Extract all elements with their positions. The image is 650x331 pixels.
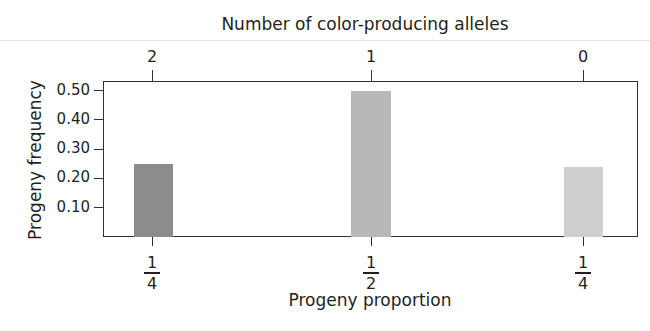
bottom-tick: [152, 237, 153, 246]
x-axis-title: Progeny proportion: [0, 290, 650, 310]
y-tick-label: 0.30: [30, 139, 90, 157]
y-tick: [94, 149, 103, 150]
fraction-numerator: 1: [578, 253, 588, 272]
bar-2-alleles: [134, 164, 173, 237]
fraction-label-quarter: 1 4: [568, 254, 598, 292]
top-tick: [152, 70, 153, 81]
top-tick-label-0: 0: [568, 47, 598, 66]
fraction-numerator: 1: [366, 253, 376, 272]
y-tick: [94, 119, 103, 120]
y-tick: [94, 90, 103, 91]
top-tick: [583, 70, 584, 81]
y-tick-label: 0.40: [30, 110, 90, 128]
fraction-label-half: 1 2: [356, 254, 386, 292]
fraction-label-quarter: 1 4: [137, 254, 167, 292]
top-tick-label-2: 2: [137, 47, 167, 66]
y-tick-label: 0.20: [30, 168, 90, 186]
y-tick-label: 0.10: [30, 198, 90, 216]
fraction-numerator: 1: [147, 253, 157, 272]
y-tick: [94, 178, 103, 179]
bar-1-allele: [351, 91, 391, 237]
y-axis-title: Progeny frequency: [25, 80, 45, 240]
top-tick: [371, 70, 372, 81]
bottom-tick: [583, 237, 584, 246]
y-tick-label: 0.50: [30, 81, 90, 99]
bar-0-alleles: [564, 167, 603, 237]
top-tick-label-1: 1: [356, 47, 386, 66]
bottom-tick: [371, 237, 372, 246]
divider: [0, 40, 650, 41]
y-tick: [94, 207, 103, 208]
top-axis-title: Number of color-producing alleles: [0, 14, 650, 34]
